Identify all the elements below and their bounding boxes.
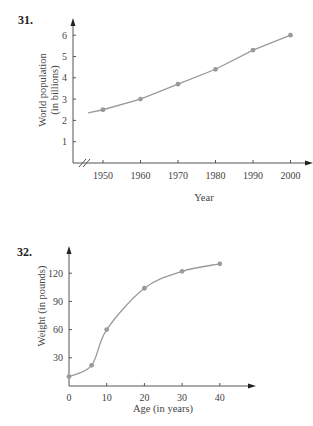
- data-point: [217, 261, 222, 266]
- x-tick-label: 40: [215, 392, 225, 403]
- y-axis-arrow-icon: [67, 246, 72, 254]
- y-tick-label: 60: [53, 324, 63, 335]
- y-axis-label: Weight (in pounds): [36, 265, 48, 346]
- y-tick-label: 30: [53, 352, 63, 363]
- x-tick-label: 30: [177, 392, 187, 403]
- data-point: [89, 363, 94, 368]
- x-tick-label: 10: [102, 392, 112, 403]
- data-point: [104, 327, 109, 332]
- data-point: [142, 286, 147, 291]
- x-tick-label: 20: [139, 392, 149, 403]
- data-point: [180, 269, 185, 274]
- x-axis-arrow-icon: [248, 384, 256, 389]
- y-tick-label: 90: [53, 296, 63, 307]
- y-tick-label: 120: [48, 268, 63, 279]
- data-point: [67, 374, 72, 379]
- weight-curve: [69, 264, 220, 377]
- weight-by-age-chart: 010203040306090120Age (in years)Weight (…: [0, 0, 313, 426]
- x-tick-label: 0: [67, 392, 72, 403]
- x-axis-label: Age (in years): [133, 403, 194, 415]
